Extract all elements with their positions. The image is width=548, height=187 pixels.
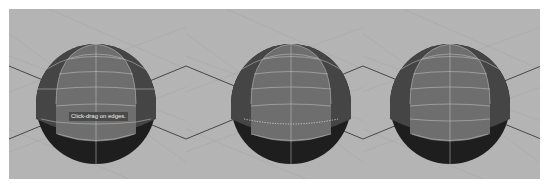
- viewport-panel-2[interactable]: [186, 9, 363, 179]
- tooltip-click-drag: Click-drag on edges.: [69, 112, 128, 121]
- viewport-strip: Click-drag on edges.: [9, 9, 541, 179]
- viewport-panel-1[interactable]: Click-drag on edges.: [9, 9, 186, 179]
- viewport-panel-3[interactable]: [363, 9, 540, 179]
- scene-sphere-icon: [9, 9, 186, 179]
- scene-sphere-icon: [186, 9, 363, 179]
- scene-sphere-icon: [363, 9, 540, 179]
